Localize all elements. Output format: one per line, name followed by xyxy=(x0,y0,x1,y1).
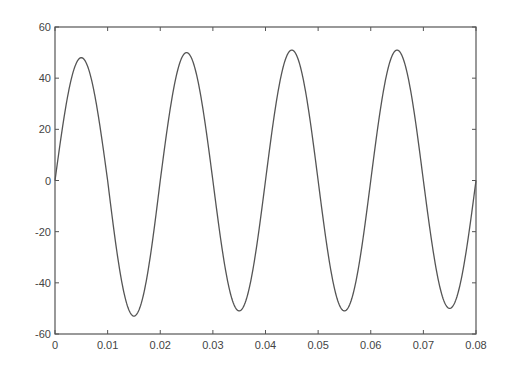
x-tick-label: 0.06 xyxy=(360,339,381,351)
x-tick-label: 0.08 xyxy=(465,339,486,351)
x-axis: 00.010.020.030.040.050.060.070.08 xyxy=(52,27,487,351)
x-tick-label: 0.03 xyxy=(202,339,223,351)
line-chart: 00.010.020.030.040.050.060.070.08 604020… xyxy=(0,0,513,368)
x-tick-label: 0 xyxy=(52,339,58,351)
y-tick-label: -20 xyxy=(35,226,51,238)
x-tick-label: 0.01 xyxy=(97,339,118,351)
x-tick-label: 0.07 xyxy=(413,339,434,351)
y-axis: 6040200-20-40-60 xyxy=(35,21,476,340)
y-tick-label: 60 xyxy=(39,21,51,33)
x-tick-label: 0.05 xyxy=(307,339,328,351)
y-tick-label: -40 xyxy=(35,277,51,289)
x-tick-label: 0.02 xyxy=(150,339,171,351)
signal-line xyxy=(55,50,476,316)
y-tick-label: 0 xyxy=(45,175,51,187)
x-tick-label: 0.04 xyxy=(255,339,276,351)
y-tick-label: 20 xyxy=(39,123,51,135)
y-tick-label: -60 xyxy=(35,328,51,340)
y-tick-label: 40 xyxy=(39,72,51,84)
